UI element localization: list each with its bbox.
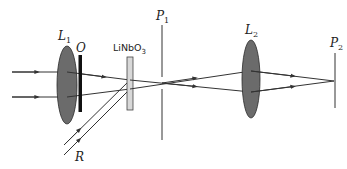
label-l1: L1	[57, 29, 71, 45]
label-linbo3: LiNbO3	[113, 42, 146, 56]
lens-l1	[57, 46, 77, 124]
object-o	[79, 55, 83, 112]
lens-l2	[242, 40, 260, 118]
label-l2: L2	[244, 23, 258, 39]
label-p1: P1	[155, 9, 169, 25]
label-r: R	[74, 150, 84, 164]
label-p2: P2	[329, 36, 343, 52]
beams-crystal-to-l2	[130, 71, 251, 92]
beams-l2-to-p2	[251, 71, 334, 92]
crystal-linbo3	[127, 57, 133, 110]
label-o: O	[76, 41, 86, 55]
optical-setup-diagram: L1 O LiNbO3 P1 L2 P2 R	[0, 0, 347, 169]
